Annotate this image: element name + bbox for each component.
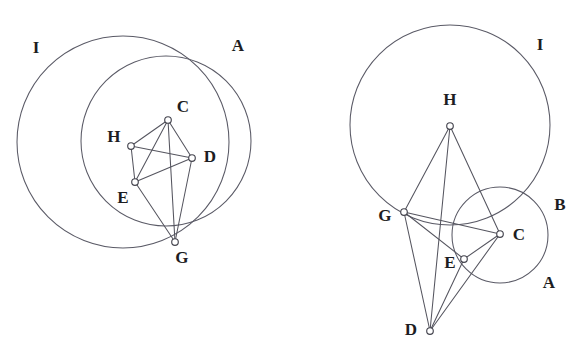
circle-label-a: A	[232, 36, 245, 55]
point-label-g: G	[175, 248, 188, 267]
geometry-figure-canvas: IACHDEG IBAHGCED	[0, 0, 588, 360]
point-label-h: H	[443, 90, 456, 109]
vertex-g	[401, 209, 408, 216]
circle-label-b: B	[554, 195, 565, 214]
vertex-g	[172, 239, 179, 246]
vertex-e	[132, 179, 139, 186]
vertex-c	[497, 231, 504, 238]
vertex-d	[427, 328, 434, 335]
circle-label-a: A	[543, 273, 556, 292]
point-label-e: E	[444, 253, 456, 272]
vertex-c	[165, 117, 172, 124]
vertex-e	[461, 256, 468, 263]
point-label-c: C	[177, 97, 189, 116]
vertex-h	[128, 143, 135, 150]
point-label-e: E	[117, 188, 129, 207]
canvas-background	[0, 0, 588, 360]
circle-label-i: I	[33, 38, 40, 57]
point-label-g: G	[378, 206, 391, 225]
point-label-c: C	[513, 225, 525, 244]
point-label-d: D	[405, 320, 417, 339]
vertex-d	[189, 155, 196, 162]
vertex-h	[447, 123, 454, 130]
circle-label-i: I	[537, 35, 544, 54]
point-label-d: D	[204, 147, 216, 166]
point-label-h: H	[107, 127, 120, 146]
